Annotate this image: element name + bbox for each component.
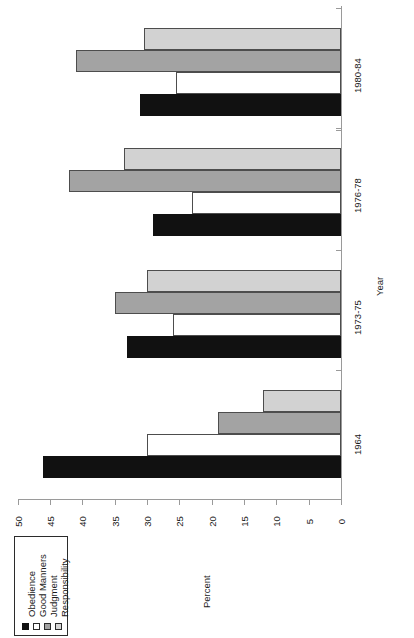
category-tick — [336, 8, 341, 9]
category-axis-title: Year — [374, 277, 385, 296]
legend-swatch-obedience — [22, 623, 29, 630]
bar-obedience-1973-75 — [127, 336, 341, 358]
value-tick — [82, 500, 83, 505]
bar-responsibility-1980-84 — [144, 28, 341, 50]
bar-judgment-1976-78 — [69, 170, 341, 192]
bar-judgment-1973-75 — [115, 292, 341, 314]
value-tick — [341, 500, 342, 505]
category-tick — [336, 250, 341, 251]
legend-swatch-good-manners — [33, 623, 40, 630]
legend: ObedienceGood MannersJudgmentResponsibil… — [14, 536, 68, 636]
bar-obedience-1976-78 — [153, 214, 341, 236]
bar-good-manners-1976-78 — [192, 192, 341, 214]
category-tick — [336, 370, 341, 371]
bar-judgment-1980-84 — [76, 50, 341, 72]
value-tick — [212, 500, 213, 505]
bar-judgment-1964 — [218, 412, 341, 434]
value-tick — [50, 500, 51, 505]
bar-obedience-1980-84 — [140, 94, 341, 116]
bar-responsibility-1973-75 — [147, 270, 341, 292]
category-tick — [336, 128, 341, 129]
bar-obedience-1964 — [43, 456, 341, 478]
bar-good-manners-1973-75 — [173, 314, 341, 336]
category-label: 1980-84 — [352, 58, 363, 93]
value-tick-label: 15 — [238, 509, 249, 535]
category-label: 1964 — [352, 434, 363, 455]
value-tick-label: 25 — [174, 509, 185, 535]
legend-swatch-judgment — [44, 623, 51, 630]
value-tick-label: 30 — [141, 509, 152, 535]
chart-figure: 05101520253035404550 19641973-751976-781… — [0, 0, 414, 638]
legend-label-judgment: Judgment — [48, 575, 59, 617]
value-axis-title: Percent — [201, 575, 212, 608]
value-tick — [244, 500, 245, 505]
value-tick — [147, 500, 148, 505]
value-tick — [115, 500, 116, 505]
value-tick-label: 40 — [77, 509, 88, 535]
value-tick-label: 0 — [336, 509, 347, 535]
bar-responsibility-1976-78 — [124, 148, 341, 170]
plot-area: 05101520253035404550 19641973-751976-781… — [0, 0, 414, 510]
legend-label-good-manners: Good Manners — [37, 554, 48, 617]
value-tick — [309, 500, 310, 505]
value-tick-label: 50 — [12, 509, 23, 535]
value-tick-label: 35 — [109, 509, 120, 535]
legend-label-obedience: Obedience — [26, 571, 37, 617]
value-tick-label: 45 — [44, 509, 55, 535]
bar-good-manners-1964 — [147, 434, 341, 456]
bar-responsibility-1964 — [263, 390, 341, 412]
value-tick — [18, 500, 19, 505]
value-tick — [276, 500, 277, 505]
legend-swatch-responsibility — [55, 623, 62, 630]
category-label: 1973-75 — [352, 300, 363, 335]
value-axis-line — [341, 6, 342, 500]
legend-label-responsibility: Responsibility — [59, 558, 70, 617]
category-label: 1976-78 — [352, 178, 363, 213]
category-tick — [336, 130, 341, 131]
value-tick-label: 10 — [271, 509, 282, 535]
bar-good-manners-1980-84 — [176, 72, 341, 94]
value-tick-label: 5 — [303, 509, 314, 535]
value-tick-label: 20 — [206, 509, 217, 535]
value-tick — [179, 500, 180, 505]
